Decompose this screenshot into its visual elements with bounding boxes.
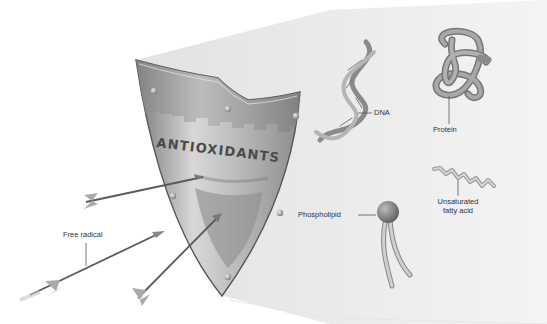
phospholipid-label: Phospholipid xyxy=(298,210,341,219)
rivet xyxy=(293,113,299,119)
rivet xyxy=(225,274,231,280)
rivet xyxy=(277,210,283,216)
dna-label: DNA xyxy=(374,108,390,117)
diagram-canvas: ANTIOXIDANTS xyxy=(0,0,547,324)
fatty-acid-label: Unsaturated fatty acid xyxy=(428,197,488,215)
protein-label: Protein xyxy=(433,125,457,134)
rivet xyxy=(225,106,231,112)
antioxidant-diagram: ANTIOXIDANTS xyxy=(0,0,547,324)
rivet xyxy=(151,88,157,94)
fatty-acid-label-line1: Unsaturated xyxy=(428,197,488,206)
rivet xyxy=(170,193,176,199)
free-radical-label: Free radical xyxy=(63,230,103,239)
fatty-acid-label-line2: fatty acid xyxy=(428,206,488,215)
